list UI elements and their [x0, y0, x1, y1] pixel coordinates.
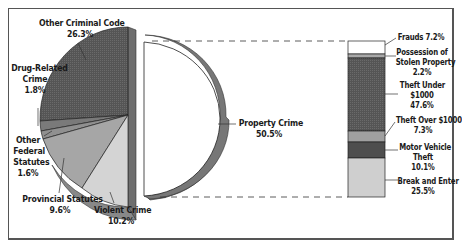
- pie-property-half: [144, 35, 229, 200]
- label-violent: Violent Crime 10.2%: [94, 204, 148, 226]
- label-theft-over: Theft Over $1000 7.3%: [396, 115, 450, 135]
- label-other-criminal-code: Other Criminal Code 26.3%: [39, 17, 121, 39]
- bar-frauds: [348, 41, 385, 54]
- pie-left-half: [40, 27, 136, 220]
- label-property-crime: Property Crime 50.5%: [239, 117, 300, 139]
- bar-theft-under: [348, 58, 385, 131]
- bar-break-enter: [348, 158, 385, 197]
- label-break-enter: Break and Enter 25.5%: [398, 176, 449, 196]
- label-other-federal: Other Federal Statutes 1.6%: [13, 134, 43, 178]
- stacked-bar: [348, 41, 385, 197]
- slice-property-crime: [144, 42, 220, 196]
- bar-possession: [348, 54, 385, 58]
- label-theft-under: Theft Under $1000 47.6%: [400, 80, 444, 110]
- bar-motor-vehicle: [348, 142, 385, 158]
- label-possession: Possession of Stolen Property 2.2%: [396, 47, 448, 77]
- label-motor-vehicle: Motor Vehicle Theft 10.1%: [399, 142, 447, 172]
- label-provincial: Provincial Statutes 9.6%: [22, 193, 97, 215]
- label-drug-related: Drug-Related Crime 1.8%: [11, 62, 59, 95]
- label-frauds: Frauds 7.2%: [397, 32, 445, 42]
- bar-theft-over: [348, 131, 385, 142]
